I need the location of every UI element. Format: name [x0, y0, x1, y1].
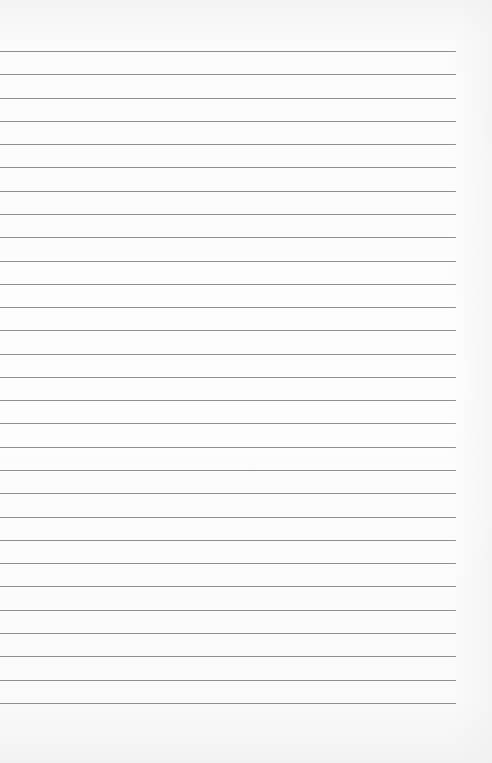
ruled-line — [0, 330, 456, 331]
ruled-line — [0, 167, 456, 168]
lined-paper-sheet — [0, 0, 492, 763]
ruled-line — [0, 121, 456, 122]
ruled-line — [0, 284, 456, 285]
ruled-line — [0, 237, 456, 238]
ruled-line — [0, 610, 456, 611]
ruled-line — [0, 586, 456, 587]
ruled-line — [0, 74, 456, 75]
ruled-line — [0, 191, 456, 192]
ruled-line — [0, 261, 456, 262]
ruled-line — [0, 144, 456, 145]
ruled-line — [0, 51, 456, 52]
ruled-line — [0, 563, 456, 564]
ruled-line — [0, 423, 456, 424]
ruled-line — [0, 307, 456, 308]
ruled-line — [0, 493, 456, 494]
ruled-line — [0, 517, 456, 518]
ruled-line — [0, 98, 456, 99]
ruled-line — [0, 377, 456, 378]
ruled-line — [0, 656, 456, 657]
ruled-line — [0, 540, 456, 541]
ruled-line — [0, 400, 456, 401]
ruled-line — [0, 633, 456, 634]
ruled-line — [0, 214, 456, 215]
ruled-line — [0, 703, 456, 704]
ruled-line — [0, 354, 456, 355]
ruled-line — [0, 470, 456, 471]
ruled-line — [0, 680, 456, 681]
ruled-line — [0, 447, 456, 448]
